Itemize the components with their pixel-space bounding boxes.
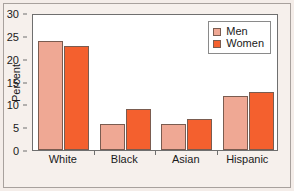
bar-white-men bbox=[38, 41, 63, 150]
legend-label: Men bbox=[226, 26, 247, 37]
bar-asian-men bbox=[161, 124, 186, 150]
y-axis-tick-mark bbox=[23, 82, 27, 83]
chart-figure: Percent 051015202530 MenWomen WhiteBlack… bbox=[0, 0, 294, 191]
y-axis-tick-labels: 051015202530 bbox=[0, 14, 27, 151]
legend-swatch-icon bbox=[213, 40, 221, 48]
legend-label: Women bbox=[226, 38, 264, 49]
plot-frame: MenWomen bbox=[32, 14, 278, 151]
bar-asian-women bbox=[187, 119, 212, 151]
y-axis-tick-mark bbox=[23, 59, 27, 60]
x-axis-tick-label: Black bbox=[111, 154, 138, 165]
bar-black-women bbox=[126, 109, 151, 150]
y-axis-tick-label: 30 bbox=[7, 9, 19, 20]
y-axis-tick-mark bbox=[23, 151, 27, 152]
y-axis-tick-label: 5 bbox=[13, 123, 19, 134]
legend-item-men: Men bbox=[213, 26, 264, 37]
legend-item-women: Women bbox=[213, 38, 264, 49]
y-axis-tick-mark bbox=[23, 36, 27, 37]
y-axis-tick-mark bbox=[23, 128, 27, 129]
y-axis-tick-label: 25 bbox=[7, 31, 19, 42]
bar-hispanic-women bbox=[249, 92, 274, 150]
x-axis-tick-label: Asian bbox=[172, 154, 200, 165]
y-axis-tick-label: 20 bbox=[7, 54, 19, 65]
y-axis-tick-label: 15 bbox=[7, 77, 19, 88]
x-axis-tick-label: Hispanic bbox=[226, 154, 268, 165]
y-axis-tick-label: 10 bbox=[7, 100, 19, 111]
x-axis-tick-label: White bbox=[49, 154, 77, 165]
y-axis-tick-label: 0 bbox=[13, 146, 19, 157]
legend-swatch-icon bbox=[213, 28, 221, 36]
bar-black-men bbox=[100, 124, 125, 150]
x-axis-tick-labels: WhiteBlackAsianHispanic bbox=[32, 153, 278, 173]
y-axis-tick-mark bbox=[23, 14, 27, 15]
bar-white-women bbox=[64, 46, 89, 150]
bar-hispanic-men bbox=[223, 96, 248, 150]
chart-legend: MenWomen bbox=[208, 21, 271, 54]
y-axis-tick-mark bbox=[23, 105, 27, 106]
